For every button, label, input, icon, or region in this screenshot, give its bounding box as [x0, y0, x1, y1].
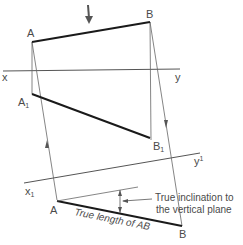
- label-x1: x1: [25, 185, 35, 198]
- label-B-auxiliary: B: [179, 228, 186, 240]
- projector-arrow-icon: [164, 120, 168, 128]
- label-A-auxiliary: A: [50, 204, 58, 216]
- line-AB-top-view: [32, 22, 150, 42]
- xy-reference-line: [3, 69, 180, 71]
- label-inclination-line1: True inclination to: [155, 192, 234, 203]
- projector-A-auxiliary: [32, 42, 57, 200]
- projector-B-vertical: [150, 22, 151, 140]
- angle-arrow-down-icon: [118, 207, 122, 213]
- label-A1: A1: [18, 96, 29, 109]
- label-y: y: [175, 71, 181, 83]
- label-B-top: B: [146, 8, 153, 20]
- label-B1: B1: [153, 140, 164, 153]
- line-A1B1-front-view: [32, 94, 150, 138]
- label-true-length: True length of AB: [74, 206, 152, 232]
- label-inclination-line2: the vertical plane: [156, 204, 232, 215]
- diagram-canvas: A B x y A1 B1 x1 y1 A B True length of A…: [0, 0, 243, 245]
- angle-arrow-up-icon: [118, 190, 122, 196]
- view-direction-arrow-icon: [85, 16, 93, 24]
- label-A-top: A: [27, 27, 35, 39]
- label-y1: y1: [194, 155, 204, 167]
- label-x: x: [2, 71, 8, 83]
- inclination-reference-line: [57, 187, 138, 201]
- leader-arrow-icon: [122, 199, 128, 203]
